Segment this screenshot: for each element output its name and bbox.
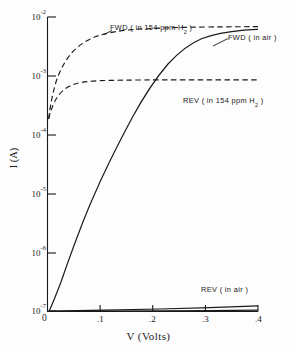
curve-fwd-air bbox=[49, 29, 258, 311]
y-tick-marks bbox=[48, 17, 57, 311]
y-tick-label-1e-2: 10-2 bbox=[22, 10, 46, 22]
x-tick-label-0-4: .4 bbox=[255, 314, 262, 324]
axis-spines bbox=[48, 17, 259, 312]
series-annotation-fwd-air: FWD ( in air ) bbox=[228, 33, 277, 42]
y-tick-label-1e-5: 10-5 bbox=[22, 187, 46, 199]
x-tick-label-0-2: .2 bbox=[149, 314, 156, 324]
plot-canvas bbox=[0, 0, 297, 351]
x-tick-label-0: 0 bbox=[42, 313, 47, 323]
series-annotation-rev-h2: REV ( in 154 ppm H2 ) bbox=[183, 96, 264, 106]
series-annotation-fwd-h2: FWD ( in 154 ppm H2 ) bbox=[110, 23, 192, 33]
leader-fwd-air bbox=[213, 39, 228, 47]
y-tick-label-1e-4: 10-4 bbox=[22, 128, 46, 140]
y-tick-label-1e-6: 10-6 bbox=[22, 246, 46, 258]
y-axis-title-wrapper: I (A) bbox=[0, 148, 38, 168]
x-tick-label-0-1: .1 bbox=[97, 314, 104, 324]
y-tick-label-1e-3: 10-3 bbox=[22, 69, 46, 81]
figure-container: 10-2 10-3 10-4 10-5 10-6 10-7 0 .1 .2 .3… bbox=[0, 0, 297, 351]
x-axis-title: V (Volts) bbox=[0, 330, 297, 342]
y-axis-title: I (A) bbox=[8, 138, 19, 178]
series-annotation-rev-air: REV ( in air ) bbox=[201, 285, 248, 294]
x-tick-label-0-3: .3 bbox=[202, 314, 209, 324]
